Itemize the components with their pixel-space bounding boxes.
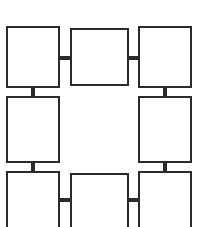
connector-top-center-to-top-right bbox=[127, 56, 140, 60]
connector-bottom-center-to-bottom-right bbox=[127, 198, 140, 202]
node-top-right[interactable] bbox=[138, 26, 192, 88]
node-top-center[interactable] bbox=[70, 28, 129, 86]
connector-bottom-left-to-bottom-center bbox=[58, 198, 72, 202]
connector-top-left-to-middle-left bbox=[31, 86, 35, 98]
node-bottom-center[interactable] bbox=[70, 173, 129, 227]
connector-middle-right-to-bottom-right bbox=[163, 161, 167, 173]
connector-middle-left-to-bottom-left bbox=[31, 161, 35, 173]
node-bottom-left[interactable] bbox=[6, 171, 60, 227]
connector-top-left-to-top-center bbox=[58, 56, 72, 60]
diagram-canvas bbox=[0, 0, 199, 227]
node-top-left[interactable] bbox=[6, 26, 60, 88]
node-middle-left[interactable] bbox=[6, 96, 60, 163]
node-middle-right[interactable] bbox=[138, 96, 192, 163]
node-bottom-right[interactable] bbox=[138, 171, 192, 227]
connector-top-right-to-middle-right bbox=[163, 86, 167, 98]
